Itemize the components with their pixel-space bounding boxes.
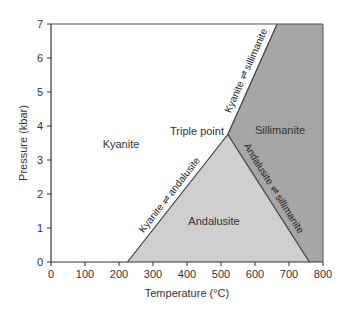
y-tick-label: 3 xyxy=(37,154,43,166)
x-tick-label: 500 xyxy=(212,268,230,280)
x-tick-label: 100 xyxy=(76,268,94,280)
y-tick-label: 2 xyxy=(37,188,43,200)
x-tick-label: 200 xyxy=(110,268,128,280)
x-axis-title: Temperature (°C) xyxy=(145,287,229,299)
x-tick-label: 0 xyxy=(48,268,54,280)
region-label-kyanite: Kyanite xyxy=(103,138,140,150)
x-tick-label: 300 xyxy=(144,268,162,280)
y-tick-label: 6 xyxy=(37,52,43,64)
x-tick-label: 600 xyxy=(246,268,264,280)
y-tick-label: 1 xyxy=(37,222,43,234)
x-tick-label: 800 xyxy=(314,268,332,280)
region-label-andalusite: Andalusite xyxy=(188,215,239,227)
phase-diagram: 010020030040050060070080001234567 Temper… xyxy=(0,0,349,309)
y-axis-title: Pressure (kbar) xyxy=(17,105,29,181)
y-tick-label: 4 xyxy=(37,120,43,132)
y-tick-label: 0 xyxy=(37,256,43,268)
y-tick-label: 7 xyxy=(37,18,43,30)
phase-regions xyxy=(51,24,323,262)
region-label-sillimanite: Sillimanite xyxy=(255,124,305,136)
x-tick-label: 400 xyxy=(178,268,196,280)
x-tick-label: 700 xyxy=(280,268,298,280)
triple-point-label: Triple point xyxy=(170,125,224,137)
y-tick-label: 5 xyxy=(37,86,43,98)
